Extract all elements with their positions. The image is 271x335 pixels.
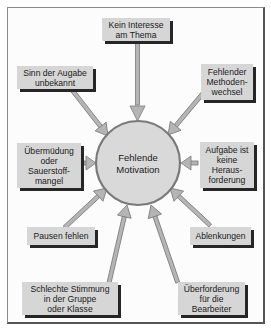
arrow-keine-herausforderung xyxy=(181,156,198,170)
cause-box-methodenwechsel: Fehlender Methoden- wechsel xyxy=(201,64,253,100)
cause-box-ueberforderung: Überforderung für die Bearbeiter xyxy=(178,282,245,315)
cause-box-ablenkungen: Ablenkungen xyxy=(190,227,251,245)
arrow-kein-interesse xyxy=(130,42,145,121)
cause-box-schlechte-stimmung: Schlechte Stimmung in der Gruppe oder Kl… xyxy=(22,282,118,315)
arrow-ueberforderung xyxy=(144,203,184,285)
cause-box-keine-herausforderung: Aufgabe ist keine Heraus- forderung xyxy=(200,142,254,188)
arrow-schlechte-stimmung xyxy=(102,203,134,286)
cause-box-pausen: Pausen fehlen xyxy=(27,227,95,245)
center-label: Fehlende Motivation xyxy=(95,152,181,176)
cause-box-uebermuedung: Übermüdung oder Sauerstoff- mangel xyxy=(17,143,81,188)
arrow-pausen xyxy=(60,183,112,233)
arrow-ablenkungen xyxy=(165,183,215,231)
cause-box-kein-interesse: Kein Interesse am Thema xyxy=(102,18,170,41)
cause-box-sinn-unbekannt: Sinn der Augabe unbekannt xyxy=(17,66,93,89)
